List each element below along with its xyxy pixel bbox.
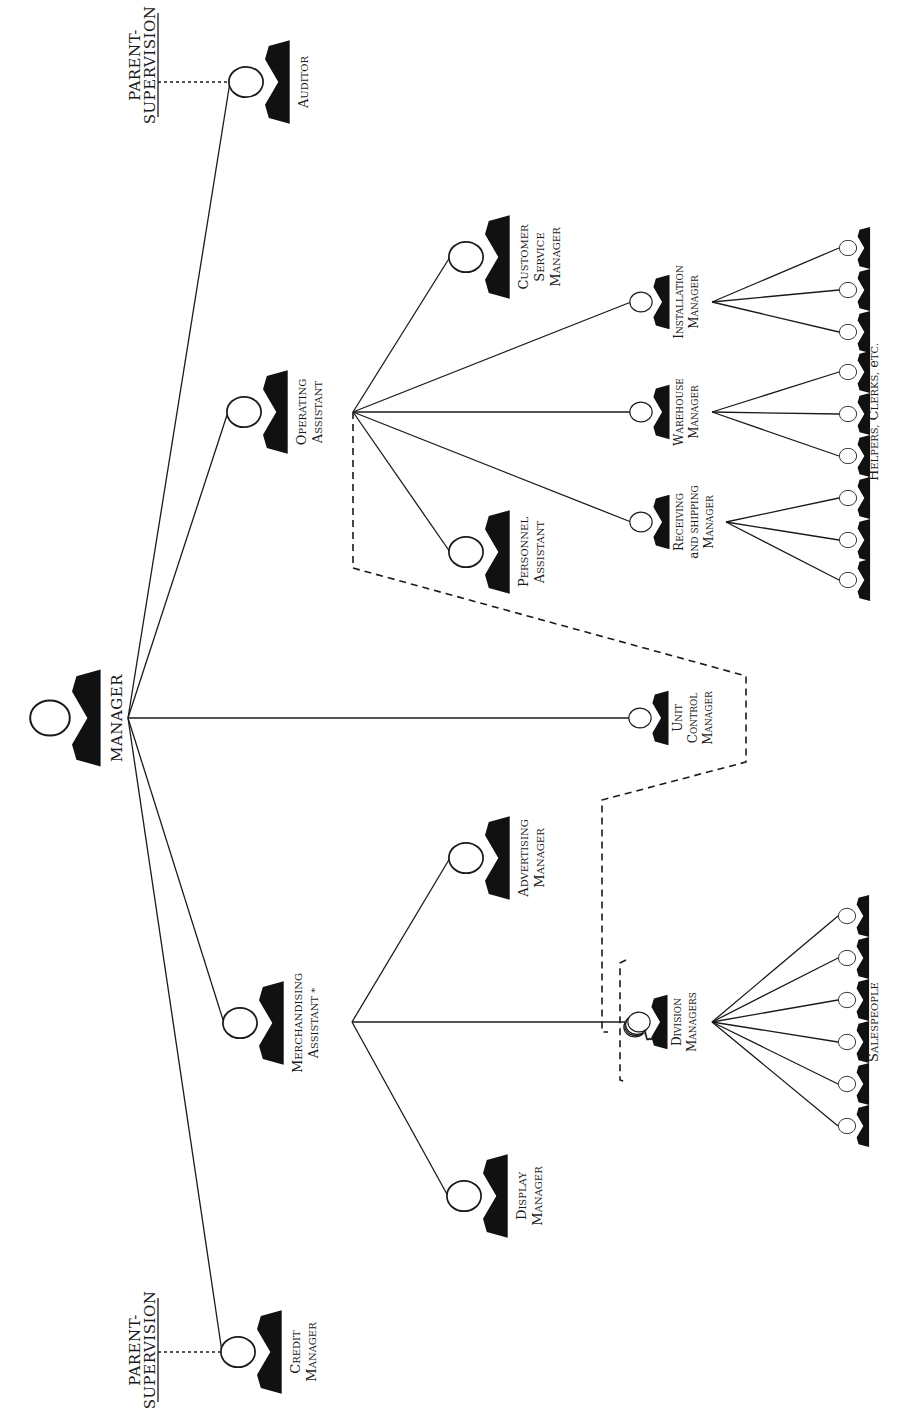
person-body-icon <box>259 981 284 1065</box>
worker-person-icon <box>839 477 870 519</box>
org-nodes: MANAGERAUDITOROPERATINGASSISTANTUNITCONT… <box>30 40 716 1394</box>
person-head-icon <box>223 1008 257 1038</box>
node-label-line: MANAGER <box>304 1322 319 1382</box>
person-body-icon <box>858 227 870 269</box>
worker-person-icon <box>839 269 870 311</box>
node-label-line: MANAGER <box>702 495 716 549</box>
auditor-label: AUDITOR <box>296 55 311 109</box>
operating-assistant-person-icon <box>227 370 288 454</box>
person-head-icon <box>838 1034 855 1049</box>
receiving-shipping-manager-person-icon <box>630 495 670 550</box>
node-label-line: AUDITOR <box>296 55 311 109</box>
worker-person-icon <box>838 895 869 937</box>
person-body-icon <box>257 1310 282 1394</box>
node-label-line: INSTALLATION <box>672 265 686 339</box>
node-label-line: MANAGERS <box>685 992 699 1052</box>
connector-line <box>726 498 839 522</box>
worker-person-icon <box>838 1105 869 1147</box>
worker-person-icon <box>838 979 869 1021</box>
node-label-line: CUSTOMER <box>516 224 531 290</box>
connector-line <box>712 412 839 414</box>
person-body-icon <box>72 670 101 767</box>
node-label-line: ASSISTANT <box>310 380 325 444</box>
merchandising-assistant-label: MERCHANDISINGASSISTANT * <box>290 973 321 1073</box>
person-head-icon <box>630 512 652 532</box>
person-body-icon <box>485 816 510 900</box>
person-head-icon <box>838 1076 855 1091</box>
worker-person-icon <box>839 559 870 601</box>
division-managers-label: DIVISIONMANAGERS <box>670 992 699 1052</box>
person-head-icon <box>839 364 856 379</box>
customer-service-manager-label: CUSTOMERSERVICEMANAGER <box>516 224 563 290</box>
manager-label: MANAGER <box>108 674 126 762</box>
connector-line <box>712 1000 838 1022</box>
person-body-icon <box>651 995 667 1050</box>
merchandising-assistant-person-icon <box>223 981 284 1065</box>
node-label-line: ADVERTISING <box>516 819 531 897</box>
svg-text:HELPERS, CLERKS, eTC.: HELPERS, CLERKS, eTC. <box>866 343 881 481</box>
customer-service-manager-person-icon <box>449 215 510 299</box>
installation-manager-person-icon <box>630 275 670 330</box>
person-head-icon <box>839 572 856 587</box>
parent-supervision-ps-top: PARENT-SUPERVISION <box>126 6 228 125</box>
node-label-line: RECEIVING <box>672 493 686 551</box>
node-label-line: UNIT <box>671 704 685 732</box>
auditor-person-icon <box>229 40 290 124</box>
person-body-icon <box>652 691 668 746</box>
node-label-line: PERSONNEL <box>516 517 531 587</box>
connector-line <box>353 257 450 412</box>
person-head-icon <box>449 537 483 567</box>
svg-text:SALESPEOPLE: SALESPEOPLE <box>866 982 881 1062</box>
node-label-line: aND SHIPPING <box>687 485 701 558</box>
personnel-assistant-person-icon <box>449 510 510 594</box>
person-body-icon <box>858 519 870 561</box>
worker-group-label: HELPERS, CLERKS, eTC. <box>866 343 881 481</box>
person-body-icon <box>265 40 290 124</box>
node-label-line: MANAGER <box>532 828 547 888</box>
worker-group-label: SALESPEOPLE <box>866 982 881 1062</box>
node-label-line: MANAGER <box>530 1166 545 1226</box>
connector-line <box>128 718 222 1352</box>
connector-line <box>712 372 839 412</box>
connector-line <box>128 718 224 1023</box>
unit-control-manager-person-icon <box>629 691 669 746</box>
node-label-line: MANAGER <box>548 227 563 287</box>
person-head-icon <box>30 700 70 735</box>
display-manager-label: DISPLAYMANAGER <box>514 1166 545 1226</box>
person-head-icon <box>629 708 651 728</box>
person-head-icon <box>449 843 483 873</box>
division-bracket <box>620 960 626 1082</box>
connector-line <box>353 412 450 552</box>
person-head-icon <box>839 282 856 297</box>
person-head-icon <box>227 397 261 427</box>
person-body-icon <box>483 1154 508 1238</box>
person-head-icon <box>628 1012 650 1032</box>
advertising-manager-person-icon <box>449 816 510 900</box>
warehouse-manager-label: WAREHOUSEMANAGER <box>672 378 701 446</box>
credit-manager-label: CREDITMANAGER <box>288 1322 319 1382</box>
worker-group-helpers: HELPERS, CLERKS, eTC. <box>712 227 881 601</box>
person-body-icon <box>858 477 870 519</box>
connector-line <box>712 290 839 302</box>
person-head-icon <box>838 950 855 965</box>
connector-line <box>712 412 839 456</box>
person-head-icon <box>447 1181 481 1211</box>
credit-manager-person-icon <box>221 1310 282 1394</box>
manager-person-icon <box>30 670 100 767</box>
division-managers-person-icon <box>624 995 668 1050</box>
person-head-icon <box>229 67 263 97</box>
personnel-assistant-label: PERSONNELASSISTANT <box>516 517 547 587</box>
node-label-line: MANAGER <box>687 275 701 329</box>
installation-manager-label: INSTALLATIONMANAGER <box>672 265 701 339</box>
connector-line <box>352 1022 448 1196</box>
person-body-icon <box>653 385 669 440</box>
person-body-icon <box>857 1105 869 1147</box>
display-manager-person-icon <box>447 1154 508 1238</box>
worker-person-icon <box>839 227 870 269</box>
connector-line <box>712 916 838 1022</box>
person-head-icon <box>630 292 652 312</box>
svg-text:SUPERVISION: SUPERVISION <box>141 1291 159 1410</box>
person-head-icon <box>839 406 856 421</box>
worker-groups: HELPERS, CLERKS, eTC.SALESPEOPLE <box>712 227 881 1147</box>
connector-line <box>353 412 631 522</box>
